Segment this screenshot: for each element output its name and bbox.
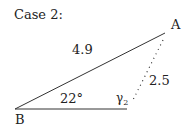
gamma-subscript: 2: [123, 98, 128, 107]
vertex-label-b: B: [15, 113, 25, 126]
angle-label-b: 22°: [60, 92, 83, 105]
angle-label-gamma: γ2: [116, 92, 128, 107]
side-dotted: [132, 40, 163, 102]
case-title: Case 2:: [14, 8, 63, 21]
side-label-dotted: 2.5: [149, 74, 170, 87]
vertex-label-a: A: [171, 18, 180, 31]
side-label-ba: 4.9: [72, 43, 93, 56]
